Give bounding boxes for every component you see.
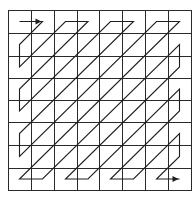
zigzag-scan-diagram bbox=[0, 0, 194, 198]
